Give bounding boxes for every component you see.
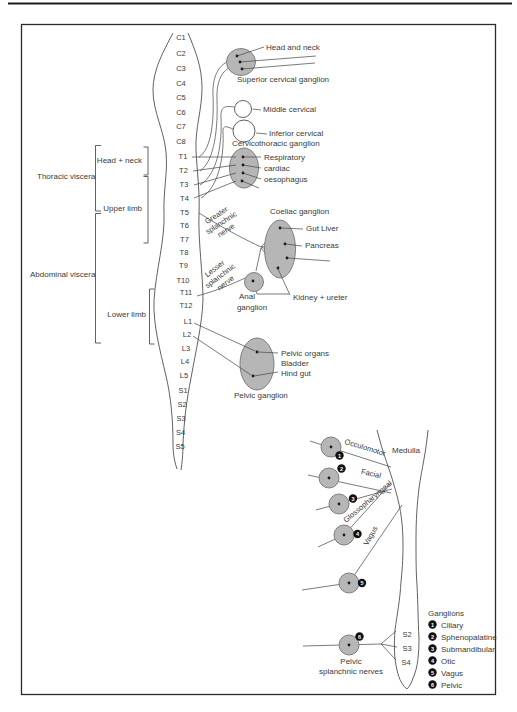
facial-label: Facial [360,467,382,480]
middle-cervical-ganglion [235,101,252,118]
synapse-dot [330,446,333,449]
pelvic-ganglion-label: Pelvic ganglion [234,391,288,400]
spine-segment-s5: S5 [175,442,184,451]
spine-segment-s2: S2 [177,400,186,409]
synapse-dot [239,61,242,64]
legend-badge-number: 2 [431,634,434,640]
cardiac-label: cardiac [264,164,290,173]
spine-labels: C1C2C3C4C5C6C7C8T1T2T3T4T5T6T7T8T9T10T11… [175,33,192,451]
thoracic-viscera-label: Thoracic viscera [37,172,96,181]
spine-segment-l3: L3 [182,344,190,353]
spine-segment-t5: T5 [180,208,189,217]
spine-segment-c5: C5 [176,93,186,102]
synapse-dot [338,503,341,506]
cranial-ganglia: 123456 [319,437,366,655]
respiratory-label: Respiratory [264,153,305,162]
hind-gut-label: Hind gut [281,369,312,378]
spine-segment-t12: T12 [180,301,193,310]
ganglion-number: 3 [351,496,354,502]
autonomic-nervous-system-diagram: C1C2C3C4C5C6C7C8T1T2T3T4T5T6T7T8T9T10T11… [0,0,517,712]
synapse-dot [348,582,351,585]
spine-segment-c6: C6 [176,108,186,117]
oesophagus-label: oesophagus [264,175,308,184]
coeliac-ganglion-label: Coeliac ganglion [270,207,329,216]
spine-segment-t2: T2 [179,166,188,175]
lower-limb-label: Lower limb [107,310,146,319]
sacral-s2-label: S2 [402,630,411,639]
kidney-ureter-label: Kidney + ureter [293,293,348,302]
ganglion-number: 5 [360,580,363,586]
legend-label-vagus: Vagus [441,669,463,678]
sympathetic-chain-fibres [199,61,234,198]
spine-segment-c3: C3 [176,64,186,73]
spine-segment-t4: T4 [180,194,189,203]
cranial-nerve-lines [302,441,402,660]
spine-segment-t3: T3 [180,180,189,189]
spine-segment-c8: C8 [176,137,186,146]
synapse-dot [242,164,245,167]
sacral-s4-label: S4 [401,658,410,667]
anal-ganglion-label-line2: ganglion [237,303,267,312]
legend-label-submandibular: Submandibular [441,645,495,654]
pancreas-label: Pancreas [305,241,339,250]
spine-segment-s3: S3 [176,414,185,423]
abdominal-viscera-label: Abdominal viscera [30,270,96,279]
greater-splanchnic-label: Greater splanchnic nerve [199,202,244,244]
pelvic-ganglion [240,338,274,390]
cervicothoracic-ganglion-label: Cervicothoracic ganglion [232,139,320,148]
spine-segment-l5: L5 [180,371,188,380]
book-page: C1C2C3C4C5C6C7C8T1T2T3T4T5T6T7T8T9T10T11… [0,0,517,712]
synapse-dot [241,180,244,183]
bladder-label: Bladder [281,359,309,368]
synapse-dot [343,534,346,537]
ganglion-number: 1 [338,453,341,459]
spine-segment-l1: L1 [184,317,192,326]
gut-liver-label: Gut Liver [306,224,339,233]
synapse-dot [256,351,259,354]
spine-segment-c7: C7 [176,122,186,131]
lesser-splanchnic-label: Lesser splanchnic nerve [198,254,243,297]
ganglion-number: 6 [358,634,361,640]
spine-segment-s4: S4 [176,428,185,437]
sacral-s3-label: S3 [402,644,411,653]
pelvic-organs-label: Pelvic organs [281,349,329,358]
upper-limb-label: Upper limb [103,204,142,213]
legend-items: 1Ciliary2Sphenopalatine3Submandibular4Ot… [428,620,497,689]
legend-label-otic: Otic [441,657,455,666]
spine-segment-c1: C1 [176,33,186,42]
legend-badge-number: 1 [431,622,434,628]
occulomotor-label: Occulomotor [344,437,388,458]
superior-cervical-ganglion-label: Superior cervical ganglion [237,75,329,84]
legend-badge-number: 5 [431,670,434,676]
synapse-dot [252,280,255,283]
medulla-label: Medulla [392,446,421,455]
head-neck-label: Head + neck [97,156,143,165]
spine-segment-t9: T9 [179,261,188,270]
spine-segment-t11: T11 [180,288,192,297]
anal-ganglion [245,273,264,292]
legend-title: Ganglions [428,609,464,618]
vagus-label: Vagus [361,524,379,547]
synapse-dot [284,243,287,246]
synapse-dot [252,375,255,378]
head-and-neck-label: Head and neck [266,43,321,52]
spine-segment-t7: T7 [180,235,189,244]
spine-segment-l4: L4 [181,357,189,366]
ganglion-number: 2 [340,466,343,472]
synapse-dot [279,227,282,230]
spine-segment-t1: T1 [179,152,188,161]
spine-segment-c2: C2 [176,49,186,58]
spine-segment-t6: T6 [180,221,189,230]
legend-label-sphenopalatine: Sphenopalatine [441,633,497,642]
legend-badge-number: 6 [431,682,434,688]
synapse-dot [241,68,244,71]
legend-label-pelvic: Pelvic [441,681,462,690]
middle-cervical-label: Middle cervical [263,105,316,114]
spine-segment-t10: T10 [177,276,190,285]
legend-badge-number: 3 [431,646,434,652]
synapse-dot [242,172,245,175]
synapse-dot [242,156,245,159]
synapse-dot [277,267,280,270]
synapse-dot [348,644,351,647]
pelvic-splanchnic-label-line1: Pelvic [340,657,361,666]
